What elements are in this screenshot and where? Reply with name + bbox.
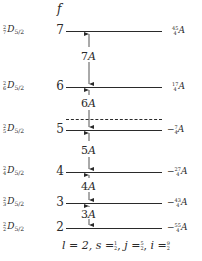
quantum-numbers-caption: l = 2, s =12, j =52, i =92: [62, 239, 170, 252]
interval-arrows: [0, 0, 202, 261]
interval-label-7-6: 7A: [81, 50, 96, 63]
interval-label-3-2: 3A: [81, 208, 96, 221]
interval-label-5-4: 5A: [81, 144, 96, 157]
interval-label-6-5: 6A: [81, 97, 96, 110]
interval-label-4-3: 4A: [81, 180, 96, 193]
